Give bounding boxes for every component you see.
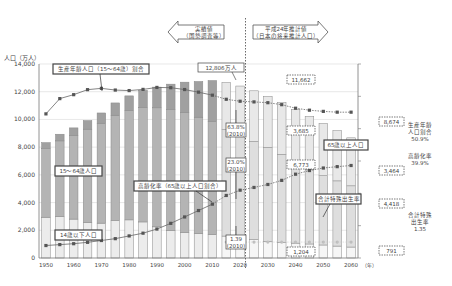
label-tfr-2010-text: 1.39: [230, 236, 243, 242]
bar-segment-14-and-under: [319, 245, 328, 258]
bar-segment-14-and-under: [180, 232, 189, 258]
bar-segment-65-plus: [97, 113, 106, 123]
label-working-pct-2010-text: (2010): [227, 131, 245, 137]
label-working-2060: 4,418: [379, 199, 404, 208]
label-old-2060: 3,464: [379, 166, 404, 175]
bar-segment-15-64: [208, 121, 217, 234]
y-tick-label: 14,000: [14, 60, 35, 67]
actual-arrow-line2: （国勢調査等）: [183, 32, 225, 40]
y-tick-label: 12,000: [14, 88, 35, 95]
right-label-working-ratio: 50.9%: [411, 136, 428, 142]
label-fertility-rate: 合計特殊出生率: [316, 194, 361, 204]
working-age-ratio-line-marker: [280, 103, 283, 106]
aging-rate-line-marker: [266, 183, 269, 186]
label-young-population: 14歳以下人口: [55, 230, 102, 240]
label-total-2030: 11,662: [287, 75, 315, 84]
bar-segment-15-64: [180, 113, 189, 233]
working-age-ratio-line-segment: [115, 90, 129, 91]
label-fertility-rate-text: 合計特殊出生率: [318, 195, 360, 203]
bar-segment-15-64: [264, 147, 273, 241]
y-tick-label: 10,000: [14, 115, 35, 122]
bar-segment-65-plus: [291, 109, 300, 163]
label-working-ratio-text: 生産年齢人口（15〜64歳）割合: [58, 65, 144, 73]
working-age-ratio-line-marker: [141, 88, 144, 91]
left-arrow-icon: [168, 21, 224, 43]
bar-segment-14-and-under: [264, 241, 273, 258]
label-working-2030: 6,773: [287, 160, 315, 169]
aging-rate-line-marker: [239, 189, 242, 192]
working-age-ratio-line-segment: [88, 88, 102, 89]
label-young-2060-text: 791: [386, 248, 397, 254]
bar-segment-65-plus: [125, 96, 134, 111]
right-label-aging-rate: 高齢化率: [408, 152, 432, 160]
label-young-2030-text: 1,204: [293, 249, 309, 255]
y-tick-label: 2,000: [18, 226, 35, 233]
aging-rate-line-marker: [349, 164, 352, 167]
bar-segment-65-plus: [56, 134, 65, 141]
working-age-ratio-line-marker: [294, 107, 297, 110]
label-old-2030: 3,685: [287, 126, 315, 135]
x-tick-label: 2050: [316, 262, 330, 268]
bar-segment-65-plus: [111, 103, 120, 115]
aging-rate-line-marker: [322, 166, 325, 169]
x-tick-label: 1990: [150, 262, 164, 268]
aging-rate-line-marker: [155, 227, 158, 230]
label-young-2030: 1,204: [287, 247, 315, 256]
bar-segment-15-64: [139, 108, 148, 222]
projected-arrow-line2: （日本の将来推計人口）: [253, 32, 319, 40]
working-age-ratio-line-marker: [322, 110, 325, 113]
label-tfr-2010-text: (2010): [227, 243, 245, 249]
label-old-population: 65歳以上人口: [324, 140, 368, 150]
aging-rate-line-marker: [280, 179, 283, 182]
right-label-fertility-rate: 1.35: [414, 226, 427, 232]
working-age-ratio-line-segment: [101, 88, 115, 90]
label-aging-rate-text: 高齢化率（65歳以上人口割合）: [138, 182, 223, 190]
label-working-ratio: 生産年齢人口（15〜64歳）割合: [53, 64, 149, 74]
aging-rate-line-marker: [141, 232, 144, 235]
working-age-ratio-line-marker: [239, 100, 242, 103]
aging-rate-line-marker: [44, 244, 47, 247]
label-old-population-text: 65歳以上人口: [328, 141, 365, 149]
label-total-2060-text: 8,674: [384, 119, 400, 125]
label-young-2060: 791: [379, 246, 404, 255]
label-total-2010: 12,806万人: [198, 63, 244, 72]
bar-segment-14-and-under: [166, 230, 175, 258]
bar-segment-15-64: [69, 135, 78, 219]
projected-arrow: 平成24年推計値 （日本の将来推計人口）: [253, 21, 328, 43]
bar-segment-65-plus: [333, 131, 342, 181]
aging-rate-line-marker: [114, 237, 117, 240]
aging-rate-line-marker: [336, 165, 339, 168]
x-tick-label: 1960: [67, 262, 81, 268]
x-axis-unit: （年）: [362, 262, 377, 269]
bar-segment-65-plus: [42, 143, 51, 149]
label-aging-pct-2010-text: (2010): [227, 166, 245, 172]
working-age-ratio-line-segment: [60, 95, 74, 99]
callout-line: [232, 72, 236, 80]
label-tfr-2010: 1.39(2010): [226, 235, 246, 249]
working-age-ratio-line-segment: [323, 111, 337, 112]
label-total-2030-text: 11,662: [291, 77, 310, 83]
bar-segment-14-and-under: [194, 234, 203, 258]
label-old-2030-text: 3,685: [293, 128, 309, 134]
working-age-ratio-line-marker: [266, 101, 269, 104]
bar-segment-14-and-under: [42, 217, 51, 258]
working-age-ratio-line-marker: [58, 97, 61, 100]
actual-arrow: 実績値 （国勢調査等）: [168, 21, 225, 43]
working-age-ratio-line-marker: [211, 94, 214, 97]
label-young-population-text: 14歳以下人口: [60, 231, 97, 239]
bar-segment-15-64: [125, 111, 134, 220]
aging-rate-line-marker: [183, 215, 186, 218]
bar-segment-15-64: [305, 170, 314, 244]
label-total-2010-text: 12,806万人: [205, 65, 236, 72]
aging-rate-line-marker: [169, 222, 172, 225]
y-tick-label: 6,000: [18, 171, 35, 178]
bar-segment-65-plus: [277, 103, 286, 155]
aging-rate-line-marker: [197, 209, 200, 212]
label-working-pct-2010-text: 63.8%: [227, 124, 244, 130]
label-aging-pct-2010: 23.0%(2010): [226, 158, 246, 172]
working-age-ratio-line-marker: [128, 89, 131, 92]
bar-segment-65-plus: [139, 90, 148, 107]
label-working-2030-text: 6,773: [293, 162, 309, 168]
bar-segment-14-and-under: [347, 247, 356, 258]
aging-rate-line-marker: [252, 186, 255, 189]
